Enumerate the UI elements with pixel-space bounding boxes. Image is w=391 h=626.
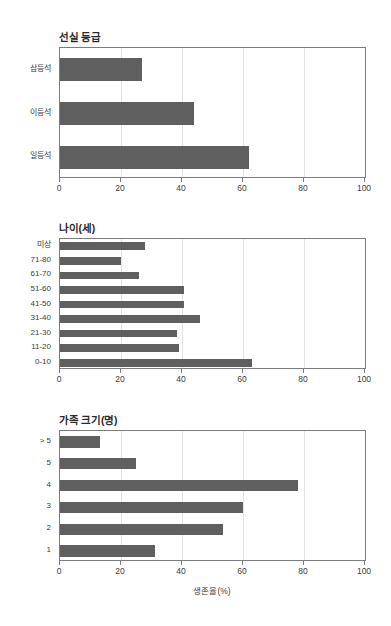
x-axis-tick-mark — [59, 178, 60, 182]
x-axis-tick-mark — [120, 178, 121, 182]
bar — [60, 344, 179, 352]
y-axis-labels-cabin-class: 삼등석이등석일등석 — [0, 47, 55, 178]
bar — [60, 436, 100, 447]
bar — [60, 272, 139, 280]
x-axis-tick-label: 0 — [57, 375, 62, 384]
y-axis-tick-label: > 5 — [40, 437, 51, 445]
bar — [60, 242, 145, 250]
bar — [60, 102, 194, 125]
x-axis-tick-mark — [181, 369, 182, 373]
y-axis-tick-label: 미상 — [37, 241, 51, 249]
gridline — [121, 431, 122, 560]
x-axis-tick-label: 20 — [115, 184, 124, 193]
x-axis-tick-mark — [120, 369, 121, 373]
x-axis-tick-mark — [303, 369, 304, 373]
x-axis-tick-mark — [59, 561, 60, 565]
y-axis-tick-label: 51-60 — [31, 285, 51, 293]
x-axis-tick-label: 60 — [237, 567, 246, 576]
y-axis-labels-age: 미상71-8061-7051-6041-5031-4021-3011-200-1… — [0, 238, 55, 369]
bar — [60, 480, 298, 491]
x-axis-tick-mark — [303, 178, 304, 182]
x-axis-tick-label: 60 — [237, 375, 246, 384]
gridline — [304, 48, 305, 177]
x-axis-tick-label: 60 — [237, 184, 246, 193]
x-axis-tick-label: 100 — [357, 184, 371, 193]
bar — [60, 58, 142, 81]
y-axis-tick-label: 1 — [47, 546, 51, 554]
x-axis-tick-mark — [242, 178, 243, 182]
bar — [60, 359, 252, 367]
x-axis-tick-mark — [59, 369, 60, 373]
x-axis-tick-label: 0 — [57, 567, 62, 576]
x-axis-tick-label: 40 — [176, 184, 185, 193]
x-axis-tick-label: 0 — [57, 184, 62, 193]
y-axis-labels-family-size: > 554321 — [0, 430, 55, 561]
y-axis-tick-label: 5 — [47, 459, 51, 467]
x-axis-tick-label: 100 — [357, 375, 371, 384]
y-axis-tick-label: 3 — [47, 502, 51, 510]
gridline — [243, 239, 244, 368]
y-axis-tick-label: 이등석 — [30, 109, 51, 117]
x-axis-age: 020406080100 — [59, 369, 366, 393]
y-axis-tick-label: 0-10 — [35, 358, 51, 366]
y-axis-tick-label: 21-30 — [31, 329, 51, 337]
chart-panel-cabin-class: 선실 등급 삼등석이등석일등석 020406080100 — [0, 0, 391, 210]
x-axis-tick-mark — [181, 561, 182, 565]
bar — [60, 315, 200, 323]
x-axis-tick-label: 20 — [115, 567, 124, 576]
x-axis-cabin-class: 020406080100 — [59, 178, 366, 202]
gridline — [304, 431, 305, 560]
figure-canvas: 선실 등급 삼등석이등석일등석 020406080100 나이(세) 미상71-… — [0, 0, 391, 626]
chart-title-family-size: 가족 크기(명) — [59, 412, 117, 427]
x-axis-tick-mark — [364, 561, 365, 565]
bar — [60, 524, 223, 535]
y-axis-tick-label: 일등석 — [30, 152, 51, 160]
bar — [60, 545, 155, 556]
x-axis-tick-mark — [364, 369, 365, 373]
x-axis-family-size: 020406080100 — [59, 561, 366, 585]
bar — [60, 286, 184, 294]
y-axis-tick-label: 4 — [47, 481, 51, 489]
gridline — [243, 431, 244, 560]
gridline — [304, 239, 305, 368]
bar — [60, 301, 184, 309]
bar — [60, 502, 243, 513]
x-axis-tick-mark — [242, 369, 243, 373]
bar — [60, 146, 249, 169]
y-axis-tick-label: 2 — [47, 524, 51, 532]
bar — [60, 330, 177, 338]
x-axis-tick-mark — [242, 561, 243, 565]
chart-title-age: 나이(세) — [59, 220, 95, 235]
chart-panel-family-size: 가족 크기(명) > 554321 020406080100 생존율(%) — [0, 395, 391, 626]
x-axis-tick-label: 40 — [176, 375, 185, 384]
x-axis-title-survival-rate: 생존율(%) — [193, 584, 230, 596]
x-axis-tick-label: 80 — [298, 184, 307, 193]
x-axis-tick-mark — [120, 561, 121, 565]
gridline — [182, 431, 183, 560]
bar — [60, 257, 121, 265]
x-axis-tick-mark — [364, 178, 365, 182]
x-axis-tick-label: 80 — [298, 567, 307, 576]
y-axis-tick-label: 삼등석 — [30, 65, 51, 73]
chart-panel-age: 나이(세) 미상71-8061-7051-6041-5031-4021-3011… — [0, 210, 391, 395]
y-axis-tick-label: 41-50 — [31, 300, 51, 308]
x-axis-tick-mark — [303, 561, 304, 565]
x-axis-tick-label: 20 — [115, 375, 124, 384]
plot-area-cabin-class — [59, 47, 366, 178]
chart-title-cabin-class: 선실 등급 — [59, 29, 101, 44]
x-axis-tick-label: 80 — [298, 375, 307, 384]
y-axis-tick-label: 11-20 — [31, 343, 51, 351]
plot-area-age — [59, 238, 366, 369]
x-axis-tick-label: 40 — [176, 567, 185, 576]
bar — [60, 458, 136, 469]
x-axis-tick-label: 100 — [357, 567, 371, 576]
x-axis-tick-mark — [181, 178, 182, 182]
y-axis-tick-label: 61-70 — [31, 270, 51, 278]
plot-area-family-size — [59, 430, 366, 561]
y-axis-tick-label: 31-40 — [31, 314, 51, 322]
y-axis-tick-label: 71-80 — [31, 256, 51, 264]
